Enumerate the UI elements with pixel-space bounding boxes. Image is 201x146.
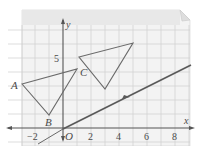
vertex-label-b: B xyxy=(45,116,52,128)
vertex-label-a: A xyxy=(10,79,18,91)
x-tick-label: 4 xyxy=(116,131,121,142)
x-axis-label: x xyxy=(183,115,189,126)
vertex-label-c: C xyxy=(80,66,88,78)
y-axis-label: y xyxy=(65,19,71,30)
x-tick-label: 2 xyxy=(88,131,93,142)
coordinate-diagram: y x O −2 2 4 6 8 5 A B C xyxy=(0,0,201,146)
x-tick-label: 8 xyxy=(172,131,177,142)
y-tick-label: 5 xyxy=(54,53,59,64)
origin-label: O xyxy=(65,130,73,142)
x-axis-right-arrow-icon xyxy=(189,126,195,130)
folded-corner xyxy=(180,10,190,21)
x-tick-label: −2 xyxy=(27,131,38,142)
x-axis-left-arrow-icon xyxy=(6,126,12,130)
x-tick-label: 6 xyxy=(144,131,149,142)
